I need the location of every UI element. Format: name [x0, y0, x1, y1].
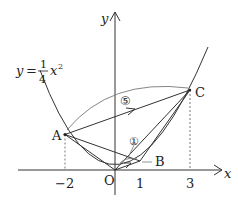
equation-denominator: 4 [39, 73, 46, 86]
point-a [63, 133, 66, 136]
equation-eq: = [26, 63, 37, 78]
x-axis-label: x [224, 166, 232, 181]
point-c-label: C [195, 85, 205, 100]
segment-bc [140, 90, 190, 161]
point-c [189, 89, 191, 91]
y-axis-label: y [100, 11, 109, 26]
point-a-label: A [51, 128, 62, 143]
equation-exponent: 2 [58, 62, 63, 71]
tick-label-1: 1 [136, 176, 144, 191]
equation-lhs: y [15, 63, 24, 78]
origin-label: O [104, 173, 115, 188]
tick-label-neg2: −2 [55, 176, 74, 191]
x-axis [18, 165, 222, 175]
diagram-canvas: y x O −2 1 3 A B C ⑤ ① y = 1 4 x 2 [0, 0, 238, 201]
arc-big-label: ⑤ [120, 94, 131, 108]
equation-var: x [50, 63, 58, 78]
point-b-label: B [155, 154, 165, 169]
equation-label: y = 1 4 x 2 [15, 58, 63, 86]
tick-label-3: 3 [186, 176, 194, 191]
segment-ao [65, 135, 115, 171]
equation-numerator: 1 [40, 58, 47, 71]
arc-small-label: ① [129, 135, 139, 148]
